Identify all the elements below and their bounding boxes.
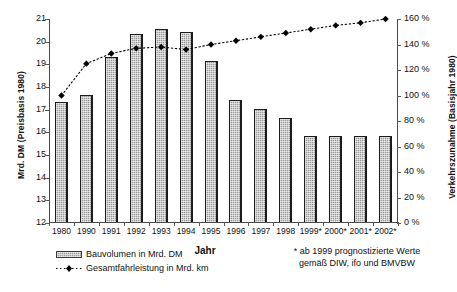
- line-marker-1980: [58, 92, 64, 98]
- line-marker-2000: [332, 22, 338, 28]
- right-tick-140: 140 %: [404, 40, 438, 49]
- legend-line-diamond-icon: [56, 264, 82, 273]
- line-marker-1998: [283, 30, 289, 36]
- right-tick-20: 20 %: [404, 193, 438, 202]
- right-tick-160: 160 %: [404, 14, 438, 23]
- left-tick-16: 16: [24, 127, 46, 136]
- left-tick-19: 19: [24, 59, 46, 68]
- line-marker-1997: [258, 34, 264, 40]
- line-marker-2002: [382, 16, 388, 22]
- legend-bar-swatch-icon: [56, 251, 82, 258]
- left-tick-14: 14: [24, 173, 46, 182]
- legend-label-gesamtfahrleistung: Gesamtfahrleistung in Mrd. km: [86, 263, 209, 273]
- legend-item-gesamtfahrleistung: Gesamtfahrleistung in Mrd. km: [56, 261, 209, 275]
- line-marker-1996: [233, 37, 239, 43]
- left-tick-18: 18: [24, 82, 46, 91]
- x-axis-tick-labels: 1980199019911992199319941995199619971998…: [49, 226, 398, 240]
- right-tick-80: 80 %: [404, 116, 438, 125]
- line-marker-1992: [133, 45, 139, 51]
- footnote-line-1: * ab 1999 prognostizierte Werte: [294, 246, 420, 256]
- footnote-line-2: gemäß DIW, ifo und BMVBW: [268, 257, 446, 269]
- line-marker-1995: [208, 41, 214, 47]
- footnote: * ab 1999 prognostizierte Werte gemäß DI…: [268, 245, 446, 269]
- left-tick-12: 12: [24, 218, 46, 227]
- line-path: [62, 19, 386, 96]
- left-tick-20: 20: [24, 37, 46, 46]
- plot-area: [49, 19, 398, 223]
- left-tick-17: 17: [24, 105, 46, 114]
- chart-legend: Bauvolumen in Mrd. DM Gesamtfahrleistung…: [56, 247, 209, 275]
- left-axis-tick-labels: 12131415161718192021: [20, 0, 46, 292]
- right-tick-40: 40 %: [404, 167, 438, 176]
- line-marker-1994: [183, 46, 189, 52]
- line-series: [49, 19, 398, 223]
- left-tick-15: 15: [24, 150, 46, 159]
- legend-item-bauvolumen: Bauvolumen in Mrd. DM: [56, 247, 209, 261]
- line-marker-2001: [357, 20, 363, 26]
- legend-label-bauvolumen: Bauvolumen in Mrd. DM: [86, 249, 183, 259]
- right-tick-120: 120 %: [404, 65, 438, 74]
- x-label-2002: 2002*: [371, 226, 401, 236]
- line-marker-1999: [308, 26, 314, 32]
- line-marker-1991: [108, 50, 114, 56]
- left-tick-21: 21: [24, 14, 46, 23]
- right-axis-title: Verkehrszunahme (Basisjahr 1980): [447, 47, 457, 207]
- right-tick-60: 60 %: [404, 142, 438, 151]
- right-tick-0: 0 %: [404, 218, 438, 227]
- right-tick-100: 100 %: [404, 91, 438, 100]
- left-tick-13: 13: [24, 195, 46, 204]
- line-marker-1993: [158, 44, 164, 50]
